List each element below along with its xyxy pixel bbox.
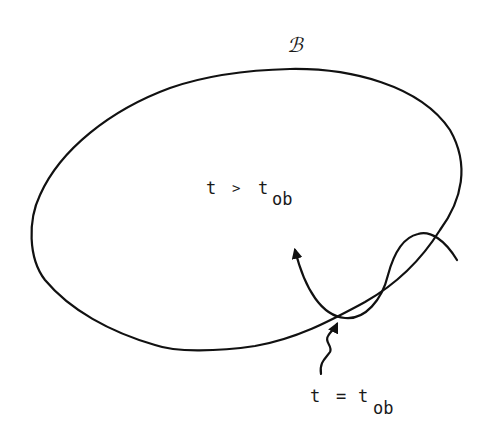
inside-label-subscript: ob [272,189,292,209]
boundary-label-relation: = [336,386,346,406]
inside-label-lhs: t [206,178,216,198]
inside-label-rhs: t [258,178,268,198]
diagram-canvas: ℬ t > t ob t = t ob [0,0,488,444]
trajectory-curve [295,233,457,318]
boundary-label-lhs: t [310,386,320,406]
inside-label-relation: > [232,180,240,196]
region-label: ℬ [287,33,304,57]
region-boundary [32,69,462,350]
squiggle-pointer [321,324,337,374]
boundary-label-subscript: ob [373,398,393,418]
boundary-label-rhs: t [358,386,368,406]
boundary-label: t = t ob [310,386,393,418]
inside-label: t > t ob [206,178,292,209]
